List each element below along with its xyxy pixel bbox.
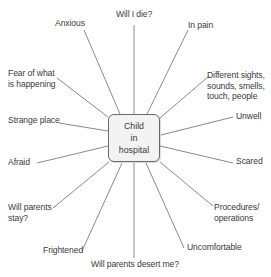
center-node-child-in-hospital: Child in hospital: [108, 114, 160, 162]
spoke-line-scared: [160, 146, 233, 163]
label-scared: Scared: [236, 156, 263, 167]
center-label: Child in hospital: [119, 120, 149, 156]
label-unwell: Unwell: [236, 111, 261, 122]
label-will-i-die: Will I die?: [116, 9, 152, 20]
spoke-line-anxious: [84, 30, 120, 114]
label-anxious: Anxious: [55, 18, 85, 29]
label-afraid: Afraid: [8, 157, 30, 168]
label-uncomfortable: Uncomfortable: [187, 242, 242, 253]
label-procedures: Procedures/ operations: [214, 202, 259, 223]
spoke-line-frightened: [82, 163, 122, 251]
spoke-line-in-pain: [147, 30, 188, 114]
spoke-line-procedures: [160, 162, 213, 206]
spoke-line-afraid: [37, 146, 108, 163]
spoke-line-uncomfortable: [146, 163, 184, 248]
label-will-parents-stay: Will parents stay?: [8, 202, 52, 223]
label-strange-place: Strange place: [8, 115, 60, 126]
spoke-line-strange-place: [59, 123, 108, 131]
label-frightened: Frightened: [43, 245, 83, 256]
label-fear-of-what: Fear of what is happening: [8, 68, 56, 89]
spoke-line-different-sights: [160, 76, 209, 118]
label-will-parents-desert: Will parents desert me?: [91, 259, 179, 270]
label-in-pain: In pain: [188, 20, 213, 31]
label-different-sights: Different sights, sounds, smells, touch,…: [207, 70, 265, 102]
spoke-line-unwell: [161, 117, 233, 135]
spoke-line-fear-of-what: [57, 78, 108, 117]
spoke-line-will-parents-stay: [53, 162, 109, 208]
